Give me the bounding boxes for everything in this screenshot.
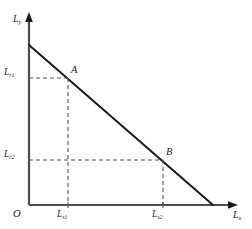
y-tick-label-2: Lr2 [4,150,15,160]
x-axis-label: Lx [233,210,241,220]
y-axis-arrow-icon [25,12,33,22]
x-axis [29,201,238,209]
x-axis-arrow-icon [228,201,238,209]
y-axis [25,12,33,205]
x-tick-label-2: Ls2 [152,210,163,220]
origin-label: O [13,209,21,220]
line-diagram-figure: Ly Lx Lr1 Lr2 Ls1 Ls2 A B O [0,0,252,229]
constraint-line [29,45,213,205]
figure-canvas [0,0,252,229]
y-tick-label-1: Lr1 [4,68,15,78]
x-tick-label-1: Ls1 [57,210,68,220]
point-label-a: A [71,65,77,76]
point-label-b: B [166,147,172,158]
y-axis-label: Ly [13,14,21,24]
